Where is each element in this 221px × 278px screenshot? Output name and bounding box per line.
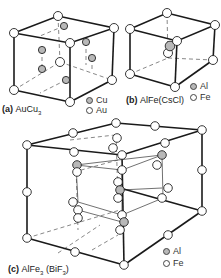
crystal-structures-diagram — [0, 0, 221, 278]
legend-b-fe: Fe — [190, 92, 211, 102]
legend-c-al: Al — [163, 246, 181, 256]
figure-b-caption: (b) AlFe(CsCl) — [126, 95, 184, 105]
unit-cell-alfe-cscl — [126, 9, 220, 92]
legend-b-al: Al — [190, 81, 208, 91]
unit-cell-aucu3 — [10, 12, 119, 107]
figure-c-caption: (c) AlFe3 (BiF3) — [8, 264, 69, 276]
shaded-circle-icon — [163, 248, 170, 255]
open-circle-icon — [86, 107, 93, 114]
open-circle-icon — [163, 260, 170, 267]
open-circle-icon — [190, 94, 197, 101]
legend-c-fe: Fe — [163, 258, 184, 268]
shaded-circle-icon — [190, 83, 197, 90]
figure-a-caption: (a) AuCu3 — [2, 104, 41, 116]
shaded-circle-icon — [86, 97, 93, 104]
legend-a-cu: Cu — [86, 95, 108, 105]
legend-a-au: Au — [86, 105, 107, 115]
